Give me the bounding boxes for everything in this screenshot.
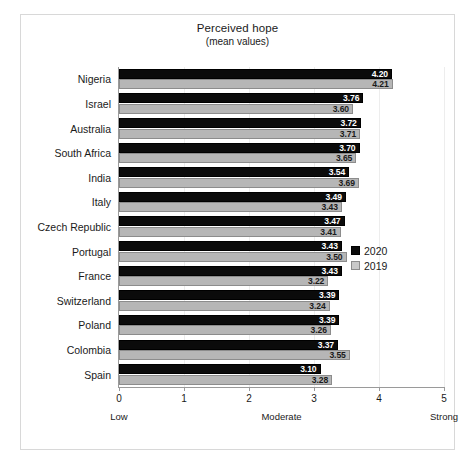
category-row: Poland3.393.26 xyxy=(119,313,444,338)
bar-2019: 3.60 xyxy=(119,104,353,114)
category-label: Portugal xyxy=(72,239,111,264)
x-tick-label: 4 xyxy=(376,393,382,404)
bar-2019: 3.28 xyxy=(119,375,332,385)
bar-2020: 3.70 xyxy=(119,143,360,153)
x-tick-label: 0 xyxy=(116,393,122,404)
bar-2020: 3.49 xyxy=(119,192,346,202)
bar-value-label: 3.39 xyxy=(319,291,335,300)
category-label: Nigeria xyxy=(78,67,111,92)
bar-value-label: 3.26 xyxy=(311,326,327,335)
bar-value-label: 3.76 xyxy=(343,94,359,103)
bar-value-label: 3.72 xyxy=(340,119,356,128)
bar-value-label: 3.28 xyxy=(312,375,328,384)
bar-2019: 3.69 xyxy=(119,178,359,188)
chart-legend: 20202019 xyxy=(351,243,421,273)
axis-anchor-label: Strong xyxy=(430,411,458,422)
bar-value-label: 3.39 xyxy=(319,315,335,324)
legend-swatch-icon xyxy=(351,261,360,270)
legend-item-2019[interactable]: 2019 xyxy=(351,258,421,273)
category-label: South Africa xyxy=(54,141,111,166)
bar-2019: 3.41 xyxy=(119,227,341,237)
bar-2020: 3.76 xyxy=(119,93,363,103)
bar-value-label: 3.47 xyxy=(324,217,340,226)
bar-value-label: 3.50 xyxy=(326,252,342,261)
category-label: Spain xyxy=(84,362,111,387)
axis-anchor-label: Moderate xyxy=(261,411,301,422)
bar-2019: 3.24 xyxy=(119,301,330,311)
x-tick-label: 3 xyxy=(311,393,317,404)
x-tick-mark xyxy=(379,387,380,391)
bar-value-label: 3.69 xyxy=(339,178,355,187)
category-row: Israel3.763.60 xyxy=(119,92,444,117)
x-tick-label: 2 xyxy=(246,393,252,404)
axis-anchor-label: Low xyxy=(110,411,127,422)
bar-value-label: 3.22 xyxy=(308,277,324,286)
category-row: Australia3.723.71 xyxy=(119,116,444,141)
legend-label: 2020 xyxy=(364,245,387,257)
category-label: India xyxy=(88,165,111,190)
category-label: Switzerland xyxy=(57,289,111,314)
category-row: Nigeria4.204.21 xyxy=(119,67,444,92)
x-tick-label: 5 xyxy=(441,393,447,404)
bar-value-label: 3.43 xyxy=(322,203,338,212)
bar-2019: 3.65 xyxy=(119,153,356,163)
bar-2020: 4.20 xyxy=(119,69,392,79)
category-label: Poland xyxy=(78,313,111,338)
bar-value-label: 4.21 xyxy=(372,80,388,89)
bar-2019: 3.26 xyxy=(119,325,331,335)
category-row: Spain3.103.28 xyxy=(119,362,444,387)
bar-2019: 3.50 xyxy=(119,252,347,262)
chart-frame: Perceived hope (mean values) Nigeria4.20… xyxy=(20,14,455,450)
bar-2019: 3.55 xyxy=(119,350,350,360)
category-label: Czech Republic xyxy=(37,215,111,240)
bar-2019: 3.71 xyxy=(119,129,360,139)
legend-swatch-icon xyxy=(351,246,360,255)
bar-2019: 3.22 xyxy=(119,276,328,286)
category-row: India3.543.69 xyxy=(119,165,444,190)
bar-value-label: 4.20 xyxy=(372,69,388,78)
bar-2020: 3.39 xyxy=(119,290,339,300)
category-row: Czech Republic3.473.41 xyxy=(119,215,444,240)
category-row: South Africa3.703.65 xyxy=(119,141,444,166)
legend-item-2020[interactable]: 2020 xyxy=(351,243,421,258)
bar-2020: 3.54 xyxy=(119,167,349,177)
bar-value-label: 3.49 xyxy=(326,192,342,201)
bar-value-label: 3.70 xyxy=(339,143,355,152)
bar-value-label: 3.71 xyxy=(340,129,356,138)
bar-2020: 3.43 xyxy=(119,266,342,276)
x-tick-mark xyxy=(184,387,185,391)
category-row: Colombia3.373.55 xyxy=(119,338,444,363)
plot-area: Nigeria4.204.21Israel3.763.60Australia3.… xyxy=(119,67,444,387)
x-axis: 012345LowModerateStrong xyxy=(119,387,444,433)
bar-2019: 4.21 xyxy=(119,79,393,89)
bar-2020: 3.39 xyxy=(119,315,339,325)
bar-value-label: 3.60 xyxy=(333,104,349,113)
bar-value-label: 3.43 xyxy=(322,242,338,251)
category-label: Israel xyxy=(85,92,111,117)
gridline xyxy=(444,67,445,387)
bar-value-label: 3.37 xyxy=(318,340,334,349)
bar-2020: 3.72 xyxy=(119,118,361,128)
x-tick-label: 1 xyxy=(181,393,187,404)
bar-value-label: 3.54 xyxy=(329,168,345,177)
bar-value-label: 3.10 xyxy=(300,365,316,374)
x-axis-line xyxy=(118,387,444,388)
x-tick-mark xyxy=(249,387,250,391)
category-label: Italy xyxy=(92,190,111,215)
category-label: France xyxy=(78,264,111,289)
bar-2020: 3.43 xyxy=(119,241,342,251)
chart-subtitle: (mean values) xyxy=(21,35,454,48)
bar-2020: 3.37 xyxy=(119,340,338,350)
bar-value-label: 3.55 xyxy=(329,351,345,360)
bar-value-label: 3.65 xyxy=(336,154,352,163)
x-tick-mark xyxy=(119,387,120,391)
bar-value-label: 3.24 xyxy=(309,301,325,310)
bar-2020: 3.10 xyxy=(119,364,321,374)
bar-2019: 3.43 xyxy=(119,202,342,212)
bar-value-label: 3.41 xyxy=(320,227,336,236)
x-tick-mark xyxy=(444,387,445,391)
category-label: Australia xyxy=(70,116,111,141)
category-label: Colombia xyxy=(67,338,111,363)
category-row: Switzerland3.393.24 xyxy=(119,289,444,314)
bar-2020: 3.47 xyxy=(119,216,345,226)
